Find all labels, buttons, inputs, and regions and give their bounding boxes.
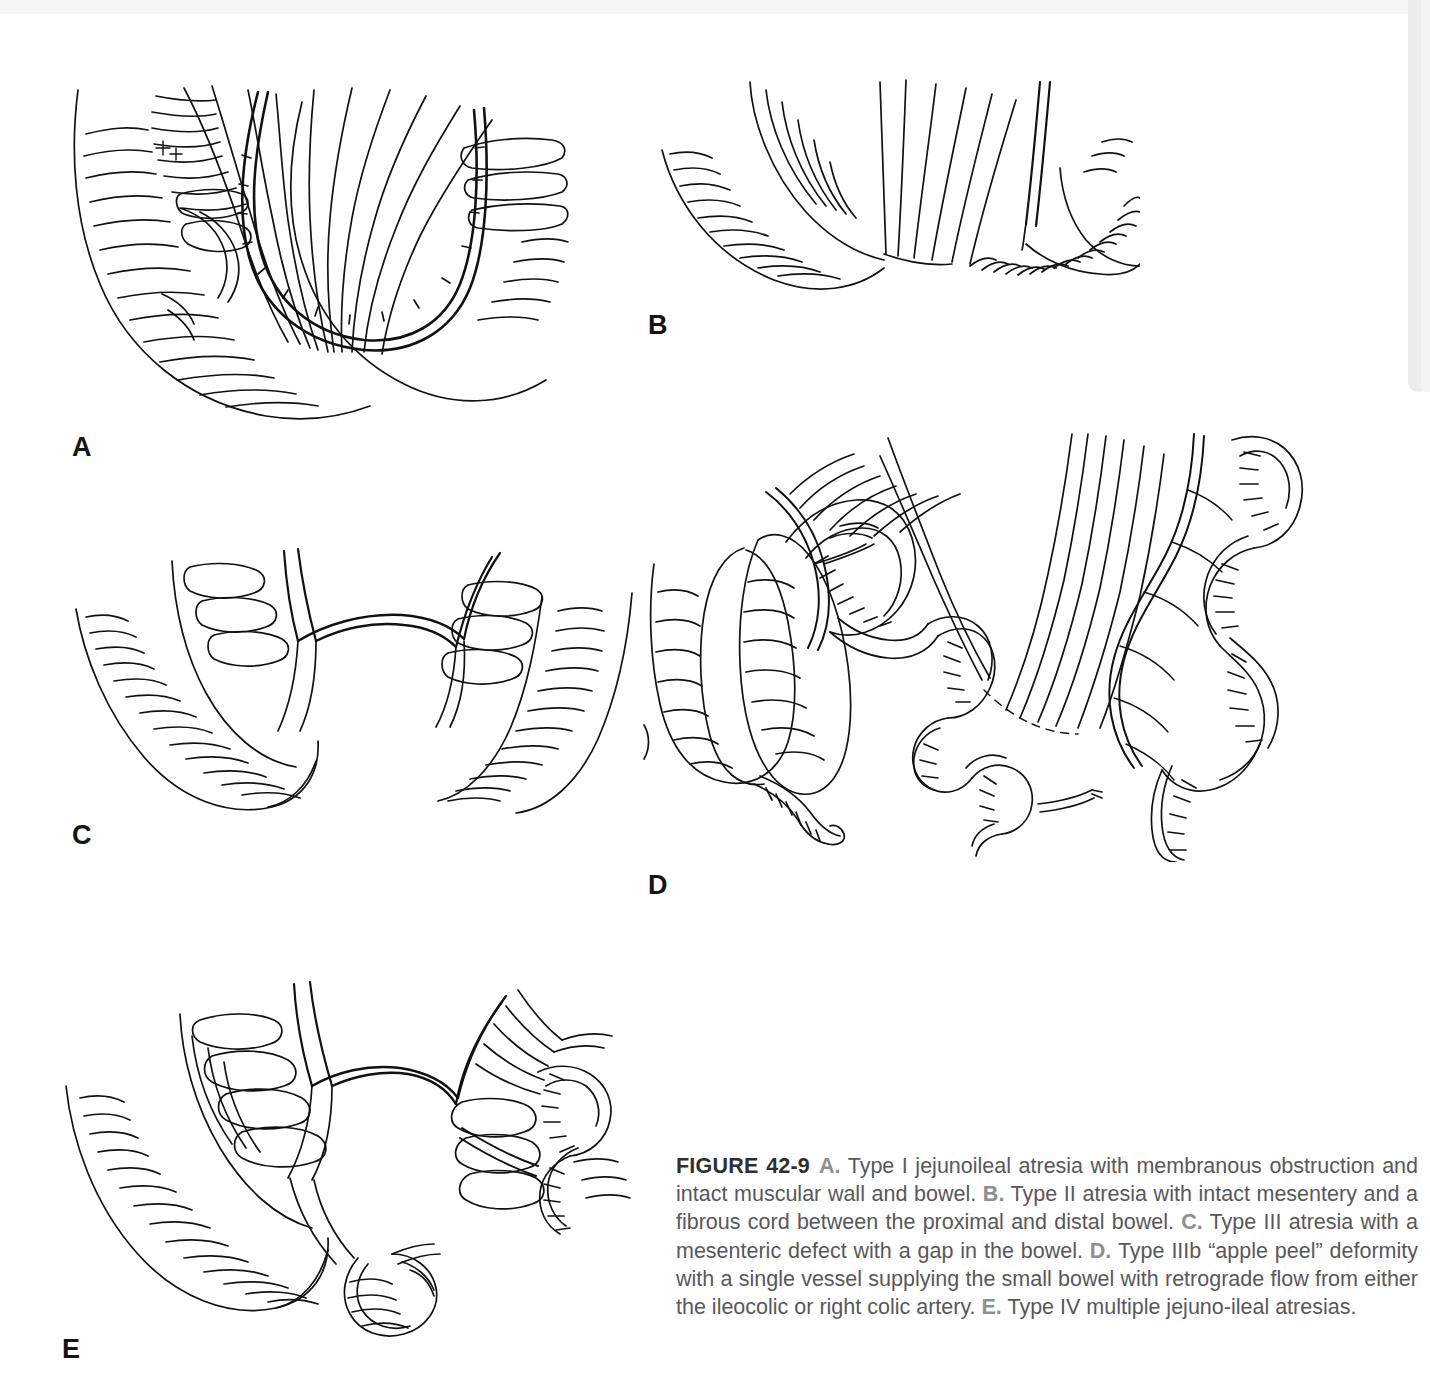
panel-label-e: E	[62, 1336, 81, 1363]
panel-e-illustration	[62, 952, 662, 1342]
figure-number: FIGURE 42-9	[676, 1154, 810, 1178]
panel-label-a: A	[72, 434, 92, 461]
panel-label-c: C	[72, 822, 92, 849]
caption-text-e: Type IV multiple jejuno-ileal atresias.	[1007, 1295, 1356, 1319]
page-thumb-index-tab-inner	[1421, 0, 1430, 392]
page-top-scan-band	[0, 0, 1430, 14]
panel-b-illustration	[640, 76, 1140, 316]
panel-c-illustration	[72, 545, 652, 845]
panel-label-d: D	[648, 872, 668, 899]
figure-caption: FIGURE 42-9A. Type I jejunoileal atresia…	[676, 1152, 1418, 1321]
figure-page: A	[0, 0, 1430, 1375]
caption-label-d: D.	[1090, 1239, 1112, 1263]
caption-label-e: E.	[982, 1295, 1002, 1319]
caption-label-c: C.	[1181, 1210, 1203, 1234]
page-thumb-index-tab	[1408, 0, 1430, 392]
caption-label-a: A.	[819, 1154, 841, 1178]
panel-a-illustration	[52, 62, 572, 432]
panel-d-illustration	[648, 432, 1356, 862]
panel-label-b: B	[648, 312, 668, 339]
caption-label-b: B.	[983, 1182, 1005, 1206]
